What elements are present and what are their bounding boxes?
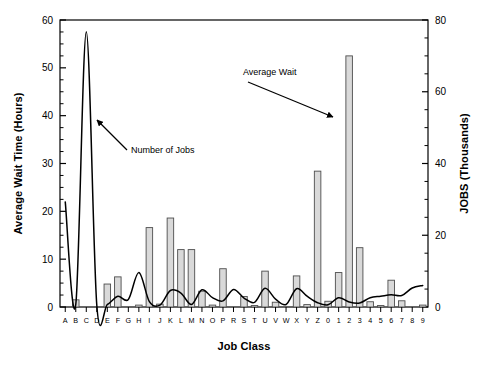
annotation-number-of-jobs-label: Number of Jobs <box>131 145 195 155</box>
x-tick-label: 3 <box>358 316 362 325</box>
x-tick-label: 4 <box>368 316 372 325</box>
bar <box>398 301 405 307</box>
chart-canvas: 0102030405060020406080ABCDEFGHIJKLMNOPRS… <box>0 0 480 368</box>
bar <box>367 302 374 307</box>
y-left-tick-label: 60 <box>42 15 54 26</box>
bar <box>272 302 279 307</box>
y-left-tick-label: 30 <box>42 158 54 169</box>
x-tick-label: X <box>294 316 299 325</box>
x-tick-label: E <box>105 316 110 325</box>
y-left-tick-label: 40 <box>42 110 54 121</box>
bar-series-average-wait <box>73 56 426 307</box>
y-left-tick-label: 50 <box>42 62 54 73</box>
y-right-tick-label: 20 <box>435 230 447 241</box>
bar <box>314 171 321 307</box>
bar <box>209 305 216 307</box>
x-tick-label: T <box>252 316 257 325</box>
x-tick-label: G <box>126 316 132 325</box>
bar <box>377 306 384 307</box>
annotation-arrow <box>248 82 333 117</box>
x-tick-label: 2 <box>347 316 351 325</box>
bar <box>346 56 353 307</box>
x-axis-title: Job Class <box>218 340 271 352</box>
x-tick-label: 6 <box>389 316 393 325</box>
x-tick-label: J <box>158 316 162 325</box>
x-tick-label: W <box>283 316 290 325</box>
x-tick-label: B <box>73 316 78 325</box>
x-tick-label: R <box>231 316 236 325</box>
annotation-average-wait: Average Wait <box>243 67 333 117</box>
x-tick-label: O <box>210 316 216 325</box>
x-tick-label: Y <box>305 316 310 325</box>
bar <box>251 306 258 307</box>
x-tick-label: P <box>221 316 226 325</box>
bar <box>356 248 363 307</box>
bar <box>178 250 185 307</box>
bar <box>388 280 395 307</box>
x-tick-label: 9 <box>421 316 425 325</box>
y-left-tick-label: 20 <box>42 206 54 217</box>
x-tick-label: S <box>242 316 247 325</box>
bar <box>304 305 311 307</box>
x-tick-label: L <box>179 316 183 325</box>
x-tick-label: Z <box>315 316 320 325</box>
y-right-tick-label: 0 <box>435 302 441 313</box>
bar <box>136 305 143 307</box>
x-tick-label: C <box>84 316 89 325</box>
x-tick-label: 5 <box>379 316 383 325</box>
x-tick-label: D <box>94 316 99 325</box>
x-tick-label: 7 <box>400 316 404 325</box>
y-axis-right-title: JOBS (Thousands) <box>458 113 470 214</box>
x-tick-label: M <box>188 316 194 325</box>
x-tick-label: A <box>63 316 68 325</box>
x-tick-label: I <box>148 316 150 325</box>
annotation-number-of-jobs: Number of Jobs <box>97 120 195 155</box>
y-axis-right: 020406080 <box>422 15 447 313</box>
x-tick-label: 1 <box>337 316 341 325</box>
x-axis: ABCDEFGHIJKLMNOPRSTUVWXYZ0123456789 <box>63 307 425 325</box>
y-right-tick-label: 40 <box>435 158 447 169</box>
bar <box>188 250 195 307</box>
chart-figure: 0102030405060020406080ABCDEFGHIJKLMNOPRS… <box>0 0 480 368</box>
bar <box>199 291 206 307</box>
x-tick-label: 8 <box>410 316 414 325</box>
bar <box>335 273 342 307</box>
x-tick-label: U <box>262 316 267 325</box>
y-axis-left: 0102030405060 <box>42 15 66 313</box>
annotation-average-wait-label: Average Wait <box>243 67 297 77</box>
x-tick-label: F <box>116 316 121 325</box>
y-left-tick-label: 0 <box>47 302 53 313</box>
bar <box>419 305 426 307</box>
x-tick-label: 0 <box>326 316 330 325</box>
x-tick-label: K <box>168 316 173 325</box>
y-right-tick-label: 60 <box>435 86 447 97</box>
y-left-tick-label: 10 <box>42 254 54 265</box>
plot-frame <box>60 20 428 307</box>
y-axis-left-title: Average Wait Time (Hours) <box>12 92 24 234</box>
bar <box>115 277 122 307</box>
x-tick-label: V <box>273 316 278 325</box>
annotation-arrow <box>97 120 127 150</box>
x-tick-label: H <box>136 316 141 325</box>
y-right-tick-label: 80 <box>435 15 447 26</box>
x-tick-label: N <box>199 316 204 325</box>
